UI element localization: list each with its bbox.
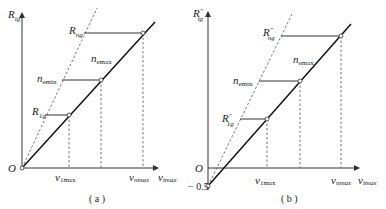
panel-a: Rig O Rng nemax nemin R1g v1max vnmax vi… (7, 8, 177, 205)
offset-label: − 0.5 (188, 181, 209, 192)
main-line (208, 24, 351, 186)
label-rng: R″ng (262, 26, 275, 42)
label-nemax: nemax (293, 53, 314, 67)
origin-label: O (195, 162, 203, 174)
tick-vnmax: vnmax (331, 174, 352, 187)
point-nemin (99, 78, 103, 82)
caption-a: ( a ) (89, 193, 105, 205)
origin-point (20, 166, 24, 170)
dashed-reference-line (208, 14, 292, 186)
point-r1g (67, 113, 71, 117)
point-r1g (265, 117, 269, 121)
label-nemax: nemax (91, 52, 112, 66)
label-nemin: nemin (233, 74, 253, 88)
label-r1g: R″1g (221, 112, 234, 128)
point-rng (141, 31, 145, 35)
point-nemin (298, 79, 302, 83)
origin-label: O (8, 162, 16, 174)
tick-vimax: vimax (358, 174, 377, 187)
dashed-reference-line (22, 8, 97, 168)
y-axis-label: Rig (7, 8, 21, 23)
main-line (22, 22, 155, 168)
tick-v1max: v1max (55, 171, 76, 184)
label-rng: Rng (68, 24, 83, 39)
label-r1g: R1g (31, 105, 46, 120)
tick-vimax: vimax (158, 171, 177, 184)
tick-vnmax: vnmax (129, 171, 150, 184)
diagram-canvas: Rig O Rng nemax nemin R1g v1max vnmax vi… (0, 0, 386, 209)
tick-v1max: v1max (255, 174, 276, 187)
label-nemin: nemin (37, 72, 57, 86)
y-axis-label: R″ig (192, 7, 204, 23)
point-rng (339, 34, 343, 38)
caption-b: ( b ) (281, 193, 298, 205)
panel-b: R″ig O − 0.5 R″ng nemax nemin R″1g v1max… (188, 7, 377, 205)
